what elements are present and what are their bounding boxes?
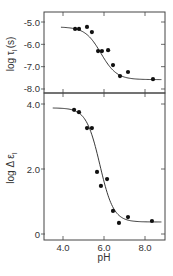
bottom-y-axis-label: log Δ εI	[5, 152, 18, 184]
bottom-y-axis-sub: I	[11, 152, 18, 154]
bottom-panel-plot: 4.06.08.04.02.00	[27, 93, 165, 253]
fit-curve	[61, 27, 161, 79]
data-point	[85, 126, 89, 130]
data-point	[126, 215, 130, 219]
y-tick-label: -7.0	[24, 61, 40, 72]
x-tick-label: 8.0	[138, 242, 151, 253]
chart-figure: -5.0-6.0-7.0-8.0 4.06.08.04.02.00 log τI…	[0, 0, 173, 276]
data-point	[111, 63, 115, 67]
data-point	[118, 74, 122, 78]
data-point	[96, 49, 100, 53]
data-point	[151, 77, 155, 81]
top-panel-plot: -5.0-6.0-7.0-8.0	[24, 12, 165, 94]
data-point	[150, 219, 154, 223]
data-point	[126, 70, 130, 74]
x-axis-label: pH	[98, 252, 111, 263]
data-point	[117, 221, 121, 225]
top-y-axis-unit: (s)	[5, 37, 16, 49]
top-y-axis-sub: I	[11, 49, 18, 51]
bottom-plot-frame	[44, 93, 165, 240]
svg-text:log τI(s): log τI(s)	[5, 37, 18, 72]
data-point	[72, 108, 76, 112]
top-y-axis-label: log τI(s)	[5, 37, 18, 72]
data-point	[85, 25, 89, 29]
data-point	[111, 209, 115, 213]
fit-curve	[53, 108, 162, 222]
y-tick-label: -5.0	[24, 17, 40, 28]
y-tick-label: 4.0	[27, 99, 40, 110]
data-point	[90, 30, 94, 34]
svg-text:log Δ εI: log Δ εI	[5, 152, 18, 184]
data-point	[77, 27, 81, 31]
data-point	[77, 110, 81, 114]
bottom-y-axis-main: log Δ ε	[5, 154, 16, 184]
top-plot-frame	[44, 12, 165, 93]
y-tick-label: 2.0	[27, 164, 40, 175]
data-point	[106, 48, 110, 52]
y-tick-label: -6.0	[24, 39, 40, 50]
data-point	[99, 184, 103, 188]
data-point	[73, 27, 77, 31]
data-point	[105, 177, 109, 181]
x-tick-label: 4.0	[56, 242, 69, 253]
y-tick-label: 0	[35, 229, 40, 240]
top-y-axis-main: log τ	[5, 51, 16, 71]
data-point	[100, 49, 104, 53]
data-point	[95, 170, 99, 174]
y-tick-label: -8.0	[24, 83, 40, 94]
data-point	[90, 126, 94, 130]
